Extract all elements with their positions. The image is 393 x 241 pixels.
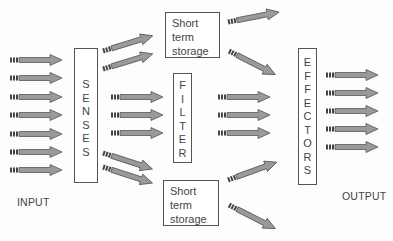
- top-storage-output-arrows: [227, 7, 281, 80]
- output-label: OUTPUT: [342, 190, 386, 202]
- diagram-canvas: S E N S E S F I L T E R E F F E C T O R …: [0, 0, 393, 241]
- input-label: INPUT: [17, 196, 50, 208]
- filter-to-effectors-arrows: [218, 92, 270, 139]
- senses-block: S E N S E S: [74, 48, 98, 183]
- storage-bottom-label: Short term storage: [170, 184, 207, 226]
- output-arrows: [326, 70, 378, 153]
- storage-top-label: Short term storage: [172, 16, 209, 58]
- senses-to-bottom-storage-arrows: [101, 148, 154, 189]
- effectors-label: E F F E C T O R S: [299, 56, 316, 178]
- filter-block: F I L T E R: [173, 73, 192, 163]
- effectors-block: E F F E C T O R S: [298, 48, 317, 185]
- senses-to-top-storage-arrows: [101, 31, 154, 75]
- short-term-storage-top: Short term storage: [165, 12, 220, 58]
- short-term-storage-bottom: Short term storage: [163, 180, 219, 226]
- senses-label: S E N S E S: [75, 78, 97, 159]
- input-arrows: [10, 55, 62, 176]
- bottom-storage-output-arrows: [226, 157, 279, 233]
- filter-label: F I L T E R: [174, 79, 191, 160]
- senses-to-filter-arrows: [111, 92, 163, 139]
